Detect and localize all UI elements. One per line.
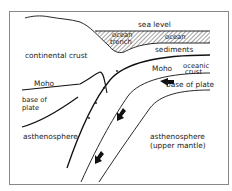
oceanic-moho-line <box>81 73 210 182</box>
label-base-of-plate-left-1: base of <box>22 96 48 104</box>
label-ocean: ocean <box>165 33 186 41</box>
label-oceanic-crust-2: crust <box>185 68 202 76</box>
label-base-of-plate-right: base of plate <box>166 80 215 89</box>
plate-motion-arrow-lower <box>95 151 104 164</box>
label-sediments: sediments <box>155 45 193 54</box>
label-moho-left: Moho <box>34 79 55 88</box>
label-asthenosphere-left: asthenosphere <box>23 132 78 141</box>
plate-motion-arrow-upper <box>117 108 126 121</box>
label-moho-right: Moho <box>152 64 173 73</box>
label-asthenosphere-right-2: (upper mantle) <box>150 141 206 150</box>
subduction-diagram: sea level ocean trench ocean sediments c… <box>0 0 232 191</box>
label-continental-crust: continental crust <box>25 51 88 60</box>
label-asthenosphere-right-1: asthenosphere <box>150 132 205 141</box>
label-base-of-plate-left-2: plate <box>22 104 39 112</box>
label-ocean-trench-2: trench <box>110 38 132 46</box>
thrust-marks <box>88 70 118 119</box>
label-sea-level: sea level <box>138 20 171 29</box>
